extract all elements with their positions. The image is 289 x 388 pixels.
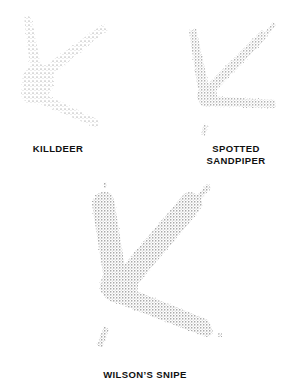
caption-wilsons-snipe: WILSON’S SNIPE xyxy=(78,369,212,381)
caption-killdeer: KILLDEER xyxy=(6,143,110,155)
figure-spotted-sandpiper xyxy=(180,14,289,144)
killdeer-track-illustration xyxy=(0,0,140,140)
spotted-sandpiper-track-illustration xyxy=(180,14,289,144)
figure-wilsons-snipe xyxy=(74,180,226,370)
killdeer-stipple-fill xyxy=(0,0,140,140)
claw-tip-mark xyxy=(74,180,226,370)
hind-toe-mark xyxy=(180,14,289,144)
caption-spotted-sandpiper: SPOTTED SANDPIPER xyxy=(188,143,284,167)
wilsons-snipe-track-illustration xyxy=(74,180,226,370)
figure-killdeer xyxy=(0,0,140,140)
track-plate: KILLDEER xyxy=(0,0,289,388)
